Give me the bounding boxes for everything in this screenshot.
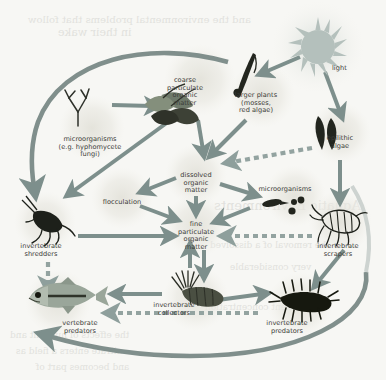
arrow-plants-to-dom <box>214 120 246 152</box>
arrow-scrapers-to-predators <box>318 250 344 282</box>
diagram-canvas: and the environmental problems that foll… <box>0 0 386 380</box>
arrow-dom-to-microbes <box>220 184 252 194</box>
food-web-illustration <box>0 0 386 380</box>
dashed-arrow-algae-to-dom <box>232 148 312 162</box>
